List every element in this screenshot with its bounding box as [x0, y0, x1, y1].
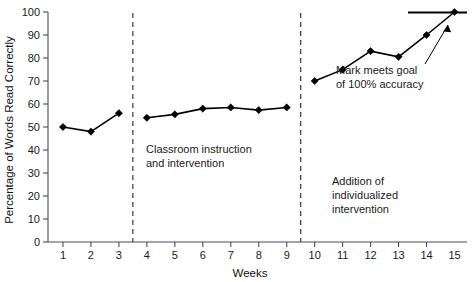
x-tick-label-8: 8	[256, 249, 262, 261]
y-tick-label-50: 50	[28, 121, 40, 133]
y-axis-title-text: Percentage of Words Read Correctly	[3, 36, 15, 224]
y-tick-label-80: 80	[28, 52, 40, 64]
data-point-week-10	[311, 77, 318, 84]
annotation-line-1: Mark meets goal	[336, 64, 417, 76]
x-tick-label-15: 15	[448, 249, 460, 261]
x-tick-label-13: 13	[392, 249, 404, 261]
annotation-mark-meets-goal: Mark meets goal of 100% accuracy	[336, 25, 451, 90]
y-tick-label-0: 0	[34, 236, 40, 248]
x-axis-tick-labels: 1 2 3 4 5 6 7 8 9 10 11 12 13 14 15	[60, 249, 461, 261]
x-tick-label-12: 12	[364, 249, 376, 261]
x-tick-label-5: 5	[172, 249, 178, 261]
data-point-week-9	[283, 104, 290, 111]
x-tick-label-4: 4	[144, 249, 150, 261]
y-tick-label-90: 90	[28, 29, 40, 41]
phase-label-classroom-instruction: Classroom instruction and intervention	[146, 143, 252, 169]
phase-label-individualized-intervention: Addition of individualized intervention	[332, 175, 398, 215]
x-tick-label-10: 10	[309, 249, 321, 261]
phase-label-individualized-line-3: intervention	[332, 203, 389, 215]
x-axis-title: Weeks	[233, 267, 268, 279]
y-tick-label-20: 20	[28, 190, 40, 202]
phase-label-individualized-line-1: Addition of	[332, 175, 385, 187]
y-tick-label-100: 100	[22, 6, 40, 18]
axes	[48, 12, 467, 242]
line-chart: Percentage of Words Read Correctly 0 10 …	[0, 0, 475, 282]
y-tick-label-40: 40	[28, 144, 40, 156]
phase-label-classroom-line-1: Classroom instruction	[146, 143, 252, 155]
x-tick-label-9: 9	[284, 249, 290, 261]
data-point-week-1	[59, 123, 66, 130]
x-tick-label-1: 1	[60, 249, 66, 261]
y-tick-label-60: 60	[28, 98, 40, 110]
annotation-line-2: of 100% accuracy	[336, 78, 424, 90]
x-tick-label-2: 2	[88, 249, 94, 261]
phase-label-classroom-line-2: and intervention	[146, 157, 224, 169]
y-tick-label-70: 70	[28, 75, 40, 87]
data-point-week-4	[143, 114, 150, 121]
annotation-arrowhead	[443, 25, 451, 32]
x-tick-label-7: 7	[228, 249, 234, 261]
x-axis-ticks	[63, 242, 427, 247]
phase-label-individualized-line-2: individualized	[332, 189, 398, 201]
x-tick-label-6: 6	[200, 249, 206, 261]
x-tick-label-14: 14	[420, 249, 432, 261]
y-axis-ticks: 0 10 20 30 40 50 60 70 80 90 100	[22, 6, 48, 248]
y-axis-title: Percentage of Words Read Correctly	[3, 36, 15, 224]
data-point-week-7	[227, 104, 234, 111]
phase-dividers	[133, 13, 301, 242]
x-tick-label-3: 3	[116, 249, 122, 261]
y-tick-label-30: 30	[28, 167, 40, 179]
chart-container: Percentage of Words Read Correctly 0 10 …	[0, 0, 475, 282]
y-tick-label-10: 10	[28, 213, 40, 225]
data-point-week-5	[171, 111, 178, 118]
data-point-week-8	[255, 107, 262, 114]
data-point-week-6	[199, 105, 206, 112]
series-segment-phase2	[147, 107, 287, 117]
x-tick-label-11: 11	[337, 249, 348, 261]
